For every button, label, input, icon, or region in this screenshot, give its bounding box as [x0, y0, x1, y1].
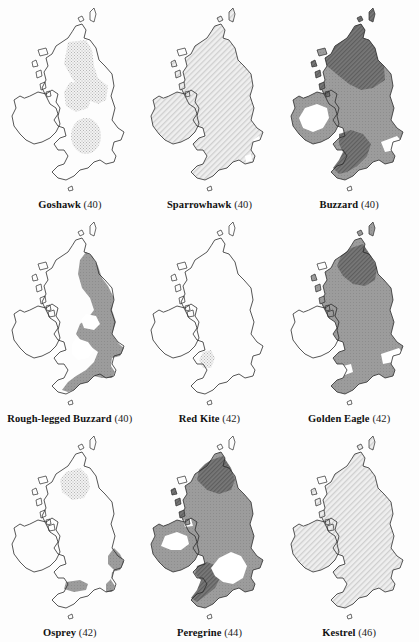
- panel-caption-red-kite: Red Kite (42): [179, 414, 240, 429]
- map-rough-legged-buzzard: [0, 214, 140, 414]
- land-fills: [60, 468, 124, 592]
- species-name: Golden Eagle: [308, 413, 370, 424]
- species-number: (42): [79, 627, 97, 638]
- channel-islands: [207, 186, 212, 191]
- species-name: Kestrel: [322, 627, 355, 638]
- channel-islands: [68, 614, 73, 619]
- channel-islands: [68, 186, 73, 191]
- map-panel-kestrel: Kestrel (46): [279, 428, 419, 642]
- coastline-ireland: [12, 90, 60, 144]
- map-peregrine: [140, 428, 280, 628]
- panel-caption-golden-eagle: Golden Eagle (42): [308, 414, 390, 429]
- channel-islands: [68, 400, 73, 405]
- species-name: Buzzard: [320, 199, 359, 210]
- channel-islands: [347, 186, 352, 191]
- map-panel-goshawk: Goshawk (40): [0, 0, 140, 214]
- panel-caption-goshawk: Goshawk (40): [38, 200, 101, 215]
- map-red-kite: [140, 214, 280, 414]
- land-fills: [199, 350, 215, 368]
- channel-islands: [207, 400, 212, 405]
- map-panel-rough-legged-buzzard: Rough-legged Buzzard (40): [0, 214, 140, 428]
- species-name: Peregrine: [177, 627, 221, 638]
- species-number: (40): [114, 413, 132, 424]
- species-name: Osprey: [43, 627, 76, 638]
- map-goshawk: [0, 0, 140, 200]
- panel-caption-kestrel: Kestrel (46): [322, 628, 376, 642]
- panel-caption-buzzard: Buzzard (40): [320, 200, 379, 215]
- species-name: Sparrowhawk: [167, 199, 232, 210]
- coastline-ireland: [12, 518, 60, 572]
- channel-islands: [207, 614, 212, 619]
- species-name: Red Kite: [179, 413, 220, 424]
- species-number: (40): [234, 199, 252, 210]
- panel-caption-sparrowhawk: Sparrowhawk (40): [167, 200, 252, 215]
- species-name: Goshawk: [38, 199, 81, 210]
- bird-distribution-map-figure: Goshawk (40): [0, 0, 419, 642]
- map-panel-buzzard: Buzzard (40): [279, 0, 419, 214]
- panel-grid: Goshawk (40): [0, 0, 419, 642]
- map-osprey: [0, 428, 140, 628]
- channel-islands: [347, 400, 352, 405]
- map-panel-peregrine: Peregrine (44): [140, 428, 280, 642]
- map-panel-red-kite: Red Kite (42): [140, 214, 280, 428]
- species-number: (40): [361, 199, 379, 210]
- map-panel-osprey: Osprey (42): [0, 428, 140, 642]
- panel-caption-peregrine: Peregrine (44): [177, 628, 242, 642]
- species-number: (42): [222, 413, 240, 424]
- map-sparrowhawk: [140, 0, 280, 200]
- species-number: (42): [372, 413, 390, 424]
- map-buzzard: [279, 0, 419, 200]
- land-fills: [64, 40, 108, 154]
- species-number: (44): [224, 627, 242, 638]
- panel-caption-rough-legged-buzzard: Rough-legged Buzzard (40): [7, 414, 132, 429]
- map-kestrel: [279, 428, 419, 628]
- species-number: (46): [358, 627, 376, 638]
- panel-caption-osprey: Osprey (42): [43, 628, 97, 642]
- coastline-ireland: [151, 304, 199, 358]
- coastline-ireland: [12, 304, 60, 358]
- map-golden-eagle: [279, 214, 419, 414]
- species-name: Rough-legged Buzzard: [7, 413, 111, 424]
- map-panel-sparrowhawk: Sparrowhawk (40): [140, 0, 280, 214]
- map-panel-golden-eagle: Golden Eagle (42): [279, 214, 419, 428]
- channel-islands: [347, 614, 352, 619]
- species-number: (40): [84, 199, 102, 210]
